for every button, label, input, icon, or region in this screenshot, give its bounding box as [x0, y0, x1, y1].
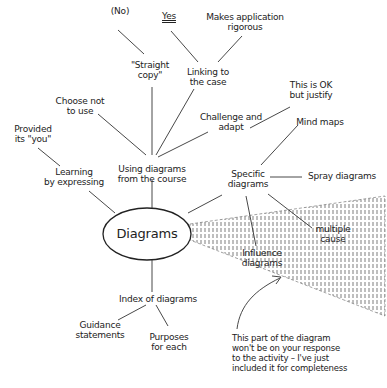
label-makes-application-rigorous: Makes application rigorous: [200, 12, 290, 32]
label-choose-not-to-use: Choose not to use: [50, 96, 110, 116]
center-label-diagrams: Diagrams: [107, 227, 187, 241]
label-no: (No): [100, 6, 140, 16]
label-linking-to-case: Linking to the case: [178, 67, 238, 87]
label-provided-its-you: Provided its "you": [6, 124, 60, 144]
label-influence-diagrams: Influence diagrams: [236, 248, 288, 268]
label-mind-maps: Mind maps: [290, 117, 350, 127]
label-spray-diagrams: Spray diagrams: [302, 171, 382, 181]
label-multiple-cause: multiple cause: [308, 224, 358, 244]
annotation-note: This part of the diagram won't be on you…: [232, 333, 382, 373]
label-specific-diagrams: Specific diagrams: [220, 169, 276, 189]
label-yes: Yes: [154, 11, 184, 21]
label-using-diagrams: Using diagrams from the course: [112, 164, 192, 184]
spray-diagram: (No) Yes Makes application rigorous "Str…: [0, 0, 387, 388]
diagram-lines: [0, 0, 387, 388]
label-learning-by-expressing: Learning by expressing: [40, 167, 108, 187]
label-guidance-statements: Guidance statements: [72, 320, 128, 340]
label-purposes-for-each: Purposes for each: [144, 332, 194, 352]
label-challenge-and-adapt: Challenge and adapt: [196, 112, 266, 132]
label-index-of-diagrams: Index of diagrams: [110, 294, 206, 304]
label-straight-copy: "Straight copy": [120, 60, 180, 80]
label-ok-but-justify: This is OK but justify: [276, 80, 346, 100]
